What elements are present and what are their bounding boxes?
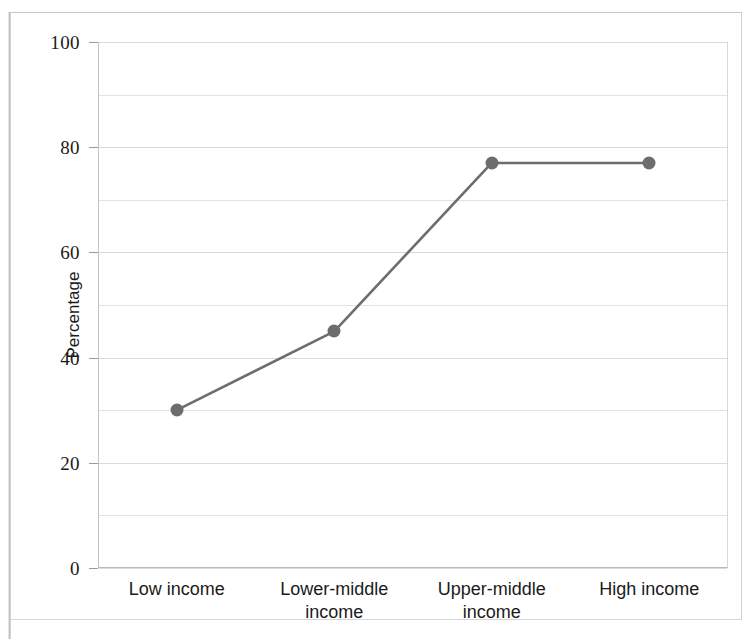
x-tick-label-line: income (397, 601, 587, 624)
data-point-marker (170, 404, 183, 417)
chart-figure: 100806040200 Percentage Low incomeLower-… (0, 0, 751, 639)
series-polyline (177, 163, 650, 410)
series-line-svg (0, 0, 751, 639)
plot-container: 100806040200 Percentage Low incomeLower-… (0, 0, 751, 639)
data-point-marker (328, 325, 341, 338)
x-tick-label-line: High income (554, 578, 744, 601)
data-point-marker (643, 156, 656, 169)
x-tick-label-3: High income (554, 578, 744, 601)
data-point-marker (485, 156, 498, 169)
